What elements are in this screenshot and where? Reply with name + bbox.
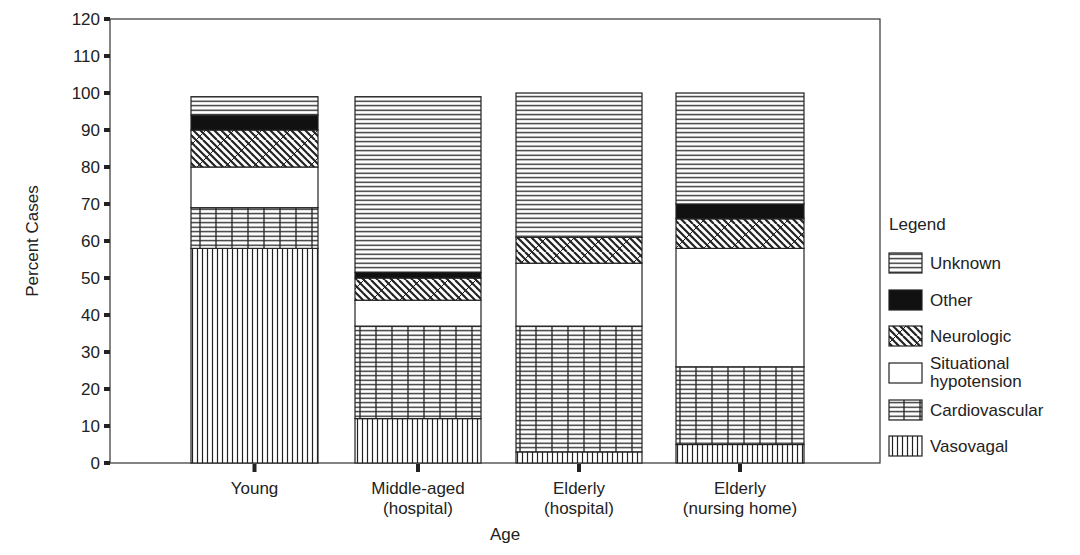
bar-segment-neurologic — [516, 237, 642, 263]
y-tick-mark — [104, 387, 110, 391]
y-tick-label: 40 — [81, 306, 100, 325]
legend-item-vasovagal: Vasovagal — [889, 436, 1008, 456]
y-tick-mark — [104, 350, 110, 354]
legend-swatch-icon — [889, 326, 922, 346]
y-tick-label: 30 — [81, 343, 100, 362]
x-tick-label: Elderly — [553, 479, 605, 498]
legend-swatch-icon — [889, 400, 922, 420]
bar-segment-unknown — [191, 97, 318, 116]
bar-segment-neurologic — [191, 130, 318, 167]
x-tick-label: (hospital) — [544, 499, 614, 518]
legend-swatch-icon — [889, 436, 922, 456]
y-tick-mark — [104, 128, 110, 132]
x-tick-mark — [738, 464, 742, 472]
x-tick-label: Middle-aged — [371, 479, 465, 498]
legend-swatch-icon — [889, 363, 922, 383]
y-tick-mark — [104, 165, 110, 169]
bar-stack — [516, 93, 642, 463]
legend-label: Cardiovascular — [930, 401, 1044, 420]
y-tick-label: 50 — [81, 269, 100, 288]
legend-label: Unknown — [930, 254, 1001, 273]
legend-label: Other — [930, 291, 973, 310]
x-tick-label: Young — [231, 479, 279, 498]
x-tick-label: (nursing home) — [683, 499, 797, 518]
bar-segment-other — [355, 272, 481, 278]
bar-segment-situational-hypotension — [676, 248, 804, 366]
y-tick-label: 80 — [81, 158, 100, 177]
bar-stack — [355, 97, 481, 463]
legend-label: Neurologic — [930, 327, 1012, 346]
bar-segment-situational-hypotension — [191, 167, 318, 208]
bar-segment-vasovagal — [676, 445, 804, 464]
bar-stack — [191, 97, 318, 463]
legend-item-cardiovascular: Cardiovascular — [889, 400, 1044, 420]
x-axis-title: Age — [490, 525, 520, 544]
y-tick-mark — [104, 54, 110, 58]
bar-segment-situational-hypotension — [516, 263, 642, 326]
y-tick-label: 110 — [73, 47, 100, 66]
legend-label: Vasovagal — [930, 437, 1008, 456]
bar-segment-vasovagal — [516, 452, 642, 463]
legend-label: Situational — [930, 354, 1009, 373]
legend-label: hypotension — [930, 372, 1022, 391]
bar-segment-neurologic — [355, 278, 481, 300]
legend-title: Legend — [889, 215, 946, 234]
bar-segment-vasovagal — [191, 248, 318, 463]
legend: Legend UnknownOtherNeurologicSituational… — [889, 215, 1044, 456]
x-tick-mark — [253, 464, 257, 472]
y-tick-mark — [104, 276, 110, 280]
bar-segment-other — [676, 204, 804, 219]
legend-item-neurologic: Neurologic — [889, 326, 1012, 346]
x-tick-label: Elderly — [714, 479, 766, 498]
y-tick-mark — [104, 461, 110, 465]
y-tick-label: 60 — [81, 232, 100, 251]
y-tick-mark — [104, 202, 110, 206]
y-tick-label: 20 — [81, 380, 100, 399]
legend-swatch-icon — [889, 290, 922, 310]
y-tick-mark — [104, 424, 110, 428]
bar-stack — [676, 93, 804, 463]
y-tick-label: 70 — [81, 195, 100, 214]
bar-segment-situational-hypotension — [355, 300, 481, 326]
bar-segment-neurologic — [676, 219, 804, 249]
bar-segment-cardiovascular — [516, 326, 642, 452]
x-tick-label: (hospital) — [383, 499, 453, 518]
legend-item-situational-hypotension: Situationalhypotension — [889, 354, 1022, 391]
bar-segment-vasovagal — [355, 419, 481, 463]
bars-group — [191, 93, 804, 463]
y-tick-mark — [104, 313, 110, 317]
y-tick-mark — [104, 17, 110, 21]
bar-segment-unknown — [355, 97, 481, 273]
legend-item-other: Other — [889, 290, 973, 310]
y-axis-title: Percent Cases — [23, 185, 42, 297]
y-axis: 0102030405060708090100110120 — [72, 10, 110, 473]
y-tick-label: 0 — [91, 454, 100, 473]
bar-segment-cardiovascular — [676, 367, 804, 445]
legend-swatch-icon — [889, 253, 922, 273]
stacked-bar-chart: 0102030405060708090100110120 YoungMiddle… — [0, 0, 1080, 555]
y-tick-label: 10 — [81, 417, 100, 436]
y-tick-mark — [104, 239, 110, 243]
x-tick-mark — [416, 464, 420, 472]
y-tick-mark — [104, 91, 110, 95]
bar-segment-unknown — [676, 93, 804, 204]
bar-segment-other — [191, 115, 318, 130]
y-tick-label: 90 — [81, 121, 100, 140]
y-tick-label: 100 — [72, 84, 100, 103]
legend-item-unknown: Unknown — [889, 253, 1001, 273]
x-tick-mark — [577, 464, 581, 472]
bar-segment-unknown — [516, 93, 642, 237]
bar-segment-cardiovascular — [355, 326, 481, 419]
x-axis: YoungMiddle-aged(hospital)Elderly(hospit… — [231, 464, 797, 518]
bar-segment-cardiovascular — [191, 208, 318, 249]
y-tick-label: 120 — [72, 10, 100, 29]
